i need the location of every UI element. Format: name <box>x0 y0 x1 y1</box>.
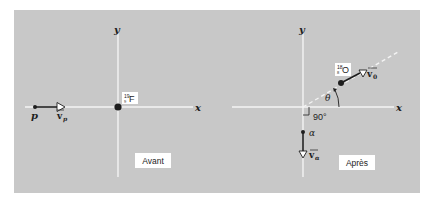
oxygen-velocity-subscript: 0 <box>373 73 377 80</box>
before-y-label: y <box>113 24 121 35</box>
alpha-velocity-subscript: α <box>315 154 320 161</box>
theta-label: θ <box>325 93 331 103</box>
proton-velocity-label: v <box>56 111 63 121</box>
reaction-diagram: y x 19 9 F p v p Avant y x θ 90° <box>0 0 432 205</box>
after-x-label: x <box>395 102 403 113</box>
after-caption: Après <box>346 158 368 168</box>
oxygen-velocity-label: v <box>366 69 373 79</box>
oxygen-symbol: O <box>342 65 349 75</box>
alpha-label: α <box>309 128 315 138</box>
proton-label: p <box>31 110 38 121</box>
after-y-label: y <box>298 24 306 35</box>
before-x-label: x <box>194 102 202 113</box>
before-caption: Avant <box>142 156 164 166</box>
alpha-velocity-label: v <box>308 150 315 160</box>
fluorine-symbol: F <box>129 94 135 104</box>
right-angle-label: 90° <box>313 112 327 122</box>
fluorine-nucleus <box>114 103 121 110</box>
